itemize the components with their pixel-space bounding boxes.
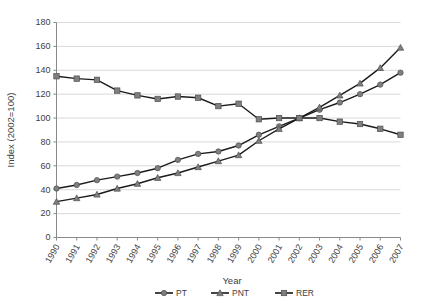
data-point-rer-2006 xyxy=(378,126,383,131)
data-point-pt-2005 xyxy=(357,91,362,96)
series-line-rer xyxy=(57,76,401,135)
data-point-rer-1992 xyxy=(94,77,99,82)
y-tick-label: 120 xyxy=(35,89,50,99)
data-point-pt-1997 xyxy=(195,151,200,156)
data-point-rer-1997 xyxy=(195,95,200,100)
y-axis-title: Index (2002=100) xyxy=(5,93,16,168)
data-point-rer-2002 xyxy=(297,115,302,120)
x-tick-label: 1998 xyxy=(205,243,224,265)
data-point-pnt-2003 xyxy=(316,104,322,110)
y-tick-label: 0 xyxy=(45,232,50,242)
y-axis-ticks: 020406080100120140160180 xyxy=(35,17,56,242)
data-point-rer-1993 xyxy=(115,88,120,93)
data-point-rer-2003 xyxy=(317,115,322,120)
data-point-rer-1999 xyxy=(236,101,241,106)
data-point-pnt-2004 xyxy=(337,92,343,98)
x-tick-label: 1996 xyxy=(164,243,183,265)
x-tick-label: 2002 xyxy=(286,243,305,265)
x-tick-label: 2005 xyxy=(347,243,366,265)
x-tick-label: 2000 xyxy=(245,243,264,265)
x-tick-label: 1995 xyxy=(144,243,163,265)
x-axis-title: Year xyxy=(222,275,241,286)
data-point-rer-1994 xyxy=(135,93,140,98)
y-tick-label: 180 xyxy=(35,17,50,27)
y-tick-label: 160 xyxy=(35,41,50,51)
data-point-rer-1991 xyxy=(74,76,79,81)
legend-item-rer[interactable]: RER xyxy=(275,288,314,298)
legend-item-pt[interactable]: PT xyxy=(155,288,187,298)
data-point-pt-2004 xyxy=(337,100,342,105)
legend-marker-rer xyxy=(281,290,286,295)
axes-frame xyxy=(57,23,401,238)
x-tick-label: 2001 xyxy=(266,243,285,265)
plot-series xyxy=(53,44,403,204)
data-point-pt-1991 xyxy=(74,182,79,187)
y-tick-label: 100 xyxy=(35,113,50,123)
y-tick-label: 20 xyxy=(40,208,50,218)
data-point-rer-2007 xyxy=(398,132,403,137)
data-point-rer-2000 xyxy=(256,117,261,122)
x-tick-label: 1999 xyxy=(225,243,244,265)
chart-svg: 020406080100120140160180 199019911992199… xyxy=(0,0,423,307)
x-axis-ticks: 1990199119921993199419951996199719981999… xyxy=(43,238,406,265)
data-point-pt-1990 xyxy=(54,186,59,191)
x-tick-label: 1997 xyxy=(185,243,204,265)
data-point-pt-2006 xyxy=(378,82,383,87)
x-tick-label: 2007 xyxy=(387,243,406,265)
data-point-pt-1995 xyxy=(155,166,160,171)
gridlines xyxy=(57,23,401,214)
x-tick-label: 1991 xyxy=(63,243,82,265)
data-point-pt-1998 xyxy=(216,149,221,154)
y-tick-label: 40 xyxy=(40,185,50,195)
legend-marker-pt xyxy=(161,290,166,295)
data-point-rer-1996 xyxy=(175,94,180,99)
data-point-rer-1995 xyxy=(155,96,160,101)
legend-label-rer: RER xyxy=(296,288,314,298)
y-tick-label: 140 xyxy=(35,65,50,75)
data-point-pt-1999 xyxy=(236,143,241,148)
x-tick-label: 2003 xyxy=(306,243,325,265)
series-rer xyxy=(54,74,403,138)
line-chart: 020406080100120140160180 199019911992199… xyxy=(0,0,423,307)
data-point-pt-1996 xyxy=(175,157,180,162)
data-point-pnt-2000 xyxy=(256,138,262,144)
legend-item-pnt[interactable]: PNT xyxy=(211,288,249,298)
x-tick-label: 2006 xyxy=(367,243,386,265)
data-point-pt-1993 xyxy=(115,174,120,179)
x-tick-label: 2004 xyxy=(326,243,345,265)
x-tick-label: 1990 xyxy=(43,243,62,265)
data-point-pt-2007 xyxy=(398,70,403,75)
data-point-rer-1998 xyxy=(216,103,221,108)
chart-legend: PTPNTRER xyxy=(155,288,314,298)
data-point-pnt-2007 xyxy=(397,44,403,50)
legend-label-pt: PT xyxy=(176,288,187,298)
legend-label-pnt: PNT xyxy=(232,288,249,298)
x-tick-label: 1992 xyxy=(84,243,103,265)
data-point-pt-2000 xyxy=(256,132,261,137)
data-point-pt-1992 xyxy=(94,177,99,182)
chart-screenshot: 020406080100120140160180 199019911992199… xyxy=(0,0,423,307)
data-point-rer-2004 xyxy=(337,119,342,124)
data-point-rer-1990 xyxy=(54,74,59,79)
y-tick-label: 80 xyxy=(40,137,50,147)
x-tick-label: 1993 xyxy=(104,243,123,265)
series-pnt xyxy=(53,44,403,204)
data-point-rer-2001 xyxy=(276,115,281,120)
y-tick-label: 60 xyxy=(40,161,50,171)
data-point-rer-2005 xyxy=(357,121,362,126)
data-point-pt-1994 xyxy=(135,170,140,175)
x-tick-label: 1994 xyxy=(124,243,143,265)
